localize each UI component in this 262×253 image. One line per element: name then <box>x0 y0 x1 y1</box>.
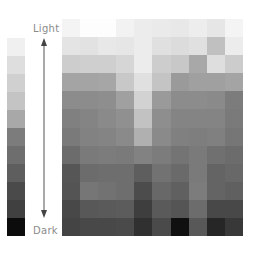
heatmap-cell <box>62 109 80 127</box>
heatmap-cell <box>171 73 189 91</box>
heatmap-cell <box>207 146 225 164</box>
heatmap-cell <box>171 200 189 218</box>
heatmap-cell <box>116 128 134 146</box>
heatmap-cell <box>225 164 243 182</box>
heatmap-cell <box>225 182 243 200</box>
heatmap-cell <box>80 73 98 91</box>
legend-swatch <box>7 110 25 128</box>
heatmap-cell <box>225 91 243 109</box>
heatmap-cell <box>62 55 80 73</box>
heatmap-cell <box>171 164 189 182</box>
heatmap-cell <box>116 91 134 109</box>
heatmap-cell <box>62 19 80 37</box>
heatmap-cell <box>171 19 189 37</box>
heatmap-cell <box>189 182 207 200</box>
heatmap-cell <box>152 73 170 91</box>
heatmap-cell <box>171 218 189 236</box>
heatmap-cell <box>189 218 207 236</box>
heatmap-cell <box>171 37 189 55</box>
heatmap-cell <box>152 146 170 164</box>
heatmap-cell <box>207 200 225 218</box>
heatmap-cell <box>171 55 189 73</box>
heatmap-cell <box>225 200 243 218</box>
heatmap-cell <box>207 164 225 182</box>
heatmap-cell <box>116 37 134 55</box>
heatmap-cell <box>62 37 80 55</box>
heatmap-cell <box>171 146 189 164</box>
heatmap-cell <box>207 109 225 127</box>
heatmap-cell <box>225 128 243 146</box>
heatmap-cell <box>116 146 134 164</box>
heatmap-cell <box>116 73 134 91</box>
heatmap-grid <box>62 19 243 236</box>
heatmap-cell <box>80 19 98 37</box>
heatmap-cell <box>225 109 243 127</box>
legend-swatch <box>7 182 25 200</box>
heatmap-cell <box>189 128 207 146</box>
heatmap-cell <box>225 218 243 236</box>
heatmap-cell <box>207 128 225 146</box>
heatmap-cell <box>134 109 152 127</box>
heatmap-cell <box>171 91 189 109</box>
heatmap-cell <box>80 37 98 55</box>
light-label: Light <box>33 23 59 34</box>
heatmap-cell <box>116 200 134 218</box>
heatmap-cell <box>189 200 207 218</box>
legend-swatch <box>7 38 25 56</box>
heatmap-cell <box>207 55 225 73</box>
grayscale-legend <box>7 38 25 236</box>
heatmap-cell <box>98 37 116 55</box>
heatmap-cell <box>98 55 116 73</box>
heatmap-cell <box>152 200 170 218</box>
legend-swatch <box>7 146 25 164</box>
heatmap-cell <box>152 182 170 200</box>
heatmap-cell <box>152 19 170 37</box>
heatmap-cell <box>189 37 207 55</box>
heatmap-cell <box>98 91 116 109</box>
heatmap-cell <box>98 182 116 200</box>
heatmap-cell <box>98 109 116 127</box>
legend-swatch <box>7 74 25 92</box>
heatmap-cell <box>116 19 134 37</box>
heatmap-cell <box>98 73 116 91</box>
legend-swatch <box>7 128 25 146</box>
heatmap-cell <box>116 55 134 73</box>
heatmap-cell <box>207 91 225 109</box>
heatmap-cell <box>152 55 170 73</box>
heatmap-cell <box>225 55 243 73</box>
heatmap-cell <box>134 55 152 73</box>
heatmap-cell <box>134 164 152 182</box>
legend-swatch <box>7 200 25 218</box>
heatmap-cell <box>116 218 134 236</box>
legend-swatch <box>7 218 25 236</box>
heatmap-cell <box>80 55 98 73</box>
heatmap-cell <box>62 91 80 109</box>
heatmap-cell <box>189 19 207 37</box>
heatmap-cell <box>62 164 80 182</box>
heatmap-cell <box>225 19 243 37</box>
heatmap-cell <box>225 146 243 164</box>
heatmap-cell <box>62 146 80 164</box>
heatmap-cell <box>189 109 207 127</box>
heatmap-cell <box>225 73 243 91</box>
heatmap-cell <box>207 19 225 37</box>
heatmap-cell <box>134 200 152 218</box>
heatmap-cell <box>134 73 152 91</box>
heatmap-cell <box>134 91 152 109</box>
legend-swatch <box>7 164 25 182</box>
light-dark-double-arrow-icon <box>40 38 48 218</box>
heatmap-cell <box>171 128 189 146</box>
heatmap-cell <box>62 218 80 236</box>
heatmap-cell <box>80 128 98 146</box>
heatmap-cell <box>171 109 189 127</box>
heatmap-cell <box>62 200 80 218</box>
heatmap-cell <box>80 91 98 109</box>
heatmap-cell <box>171 182 189 200</box>
heatmap-cell <box>98 19 116 37</box>
legend-swatch <box>7 56 25 74</box>
heatmap-cell <box>207 37 225 55</box>
heatmap-cell <box>152 91 170 109</box>
heatmap-cell <box>80 200 98 218</box>
heatmap-cell <box>134 218 152 236</box>
heatmap-cell <box>80 164 98 182</box>
